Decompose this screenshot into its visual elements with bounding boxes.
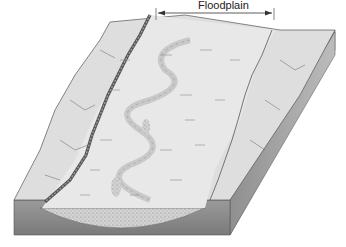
point-bar [142,119,150,135]
floodplain-block-diagram [0,0,346,247]
floodplain-label: Floodplain [198,0,249,11]
point-bar [111,177,121,197]
